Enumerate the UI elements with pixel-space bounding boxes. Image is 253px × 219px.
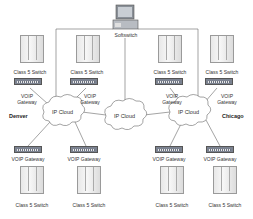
class5-switch-icon (20, 35, 44, 63)
ip-cloud-label-left: IP Cloud (52, 109, 73, 115)
switch-label: Class 5 Switch (200, 202, 250, 208)
class5-switch-icon (158, 35, 182, 63)
voip-gateway-icon (155, 78, 183, 85)
voip-gateway-icon (70, 146, 98, 153)
gateway-label: VOIP Gateway (145, 156, 193, 162)
voip-gateway-icon (205, 78, 233, 85)
softswitch-label: Softswitch (108, 32, 144, 38)
switch-label: Class 5 Switch (197, 69, 247, 75)
switch-label: Class 5 Switch (64, 202, 114, 208)
gateway-label-line2: Gateway (75, 99, 105, 105)
ip-cloud-label-center: IP Cloud (114, 113, 135, 119)
gateway-label-line2: Gateway (12, 99, 42, 105)
city-label-denver: Denver (9, 113, 28, 119)
gateway-label-line2: Gateway (212, 99, 242, 105)
gateway-label: VOIP Gateway (4, 156, 52, 162)
class5-switch-icon (76, 35, 100, 63)
gateway-label-line2: Gateway (157, 99, 187, 105)
voip-gateway-icon (70, 78, 98, 85)
voip-gateway-icon (155, 146, 183, 153)
gateway-label: VOIP Gateway (196, 156, 244, 162)
computer-icon (113, 5, 138, 29)
class5-switch-icon (160, 166, 184, 194)
switch-label: Class 5 Switch (5, 69, 55, 75)
class5-switch-icon (77, 166, 101, 194)
city-label-chicago: Chicago (222, 113, 244, 119)
class5-switch-icon (210, 35, 234, 63)
switch-label: Class 5 Switch (147, 202, 197, 208)
switch-label: Class 5 Switch (7, 202, 57, 208)
voip-gateway-icon (14, 146, 42, 153)
class5-switch-icon (213, 166, 237, 194)
voip-gateway-icon (206, 146, 234, 153)
voip-gateway-icon (14, 78, 42, 85)
class5-switch-icon (20, 166, 44, 194)
ip-cloud-label-right: IP Cloud (178, 109, 199, 115)
switch-label: Class 5 Switch (62, 69, 112, 75)
switch-label: Class 5 Switch (145, 69, 195, 75)
gateway-label: VOIP Gateway (60, 156, 108, 162)
